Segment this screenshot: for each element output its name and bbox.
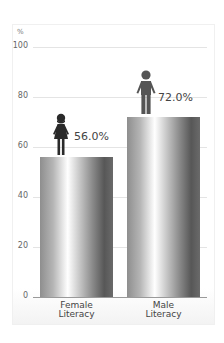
male-figure-icon: [134, 70, 158, 115]
y-tick-20: 20: [0, 241, 28, 250]
value-label-female: 56.0%: [74, 130, 109, 143]
y-tick-60: 60: [0, 141, 28, 150]
bar-male-literacy: [127, 117, 200, 297]
female-figure-icon: [51, 113, 71, 157]
x-label-male-line2: Literacy: [127, 310, 200, 319]
y-tick-100: 100: [0, 41, 28, 50]
x-label-female: Female Literacy: [40, 301, 113, 319]
bar-female-literacy: [40, 157, 113, 297]
y-tick-80: 80: [0, 91, 28, 100]
x-label-female-line2: Literacy: [40, 310, 113, 319]
y-tick-40: 40: [0, 191, 28, 200]
x-axis-line: [33, 297, 207, 298]
gridline-100: [33, 47, 207, 48]
y-axis-unit: %: [17, 28, 24, 36]
x-label-male: Male Literacy: [127, 301, 200, 319]
y-tick-0: 0: [0, 291, 28, 300]
value-label-male: 72.0%: [158, 91, 193, 104]
